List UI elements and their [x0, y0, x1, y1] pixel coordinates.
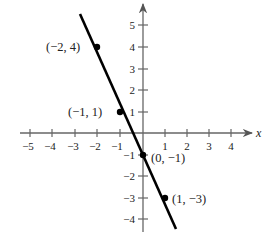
- y-tick-label: −4: [123, 213, 135, 225]
- x-tick-label: 3: [206, 140, 212, 152]
- point-label: (1, −3): [172, 192, 206, 206]
- chart: x −5 −4 −3 −2 −1 1 2 3 4 5 4: [0, 0, 266, 244]
- x-axis-label: x: [255, 126, 262, 140]
- y-tick-label: −1: [123, 149, 135, 161]
- x-tick-label: −3: [67, 140, 79, 152]
- x-tick-label: −2: [89, 140, 101, 152]
- data-point: [117, 109, 123, 115]
- x-tick-label: 4: [228, 140, 234, 152]
- y-tick-label: 2: [130, 84, 136, 96]
- y-tick-label: 3: [130, 63, 136, 75]
- y-tick-label: 5: [130, 19, 136, 31]
- data-point: [162, 195, 168, 201]
- y-tick-label: −3: [123, 192, 135, 204]
- x-tick-label: −5: [22, 140, 34, 152]
- y-tick-label: −2: [123, 170, 135, 182]
- x-tick-label: −4: [44, 140, 56, 152]
- point-label: (−1, 1): [68, 105, 102, 119]
- point-label: (0, −1): [151, 151, 185, 165]
- point-label: (−2, 4): [46, 40, 80, 54]
- x-tick-label: −1: [111, 140, 123, 152]
- y-tick-label: 1: [130, 106, 136, 118]
- data-point: [94, 44, 100, 50]
- y-tick-label: 4: [130, 41, 136, 53]
- data-point: [140, 152, 146, 158]
